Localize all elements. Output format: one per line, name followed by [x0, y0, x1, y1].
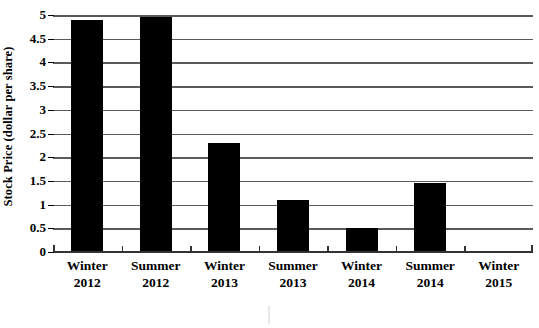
x-axis-tick-label-season: Summer — [122, 258, 191, 275]
y-axis-tick-mark — [48, 134, 54, 135]
x-axis-tick-mark — [190, 246, 192, 253]
y-axis-tick-mark — [48, 157, 54, 158]
x-axis-tick-mark — [259, 246, 261, 253]
bar[interactable] — [277, 200, 309, 252]
y-axis-tick-label: 4.5 — [14, 32, 46, 45]
x-axis-tick-label-year: 2015 — [464, 275, 533, 292]
y-axis-tick-mark — [48, 86, 54, 87]
x-axis-tick-mark — [122, 246, 124, 253]
y-axis-tick-mark — [48, 15, 54, 16]
y-axis-tick-mark — [48, 181, 54, 182]
x-axis-tick-label: Winter2015 — [464, 258, 533, 291]
gridline — [53, 134, 533, 136]
x-axis-tick-label-year: 2014 — [327, 275, 396, 292]
x-axis-tick-label: Winter2012 — [53, 258, 122, 291]
x-axis-tick-label-season: Winter — [53, 258, 122, 275]
x-axis-tick-label-season: Summer — [396, 258, 465, 275]
x-axis-tick-label-year: 2012 — [53, 275, 122, 292]
x-axis-tick-labels: Winter2012Summer2012Winter2013Summer2013… — [53, 258, 533, 308]
x-axis-tick-mark — [327, 246, 329, 253]
y-axis-tick-label: 2 — [14, 150, 46, 163]
bar[interactable] — [346, 228, 378, 252]
y-axis-tick-label: 5 — [14, 8, 46, 21]
y-axis-tick-mark — [48, 39, 54, 40]
x-axis-tick-label: Winter2013 — [190, 258, 259, 291]
x-axis-tick-label: Summer2013 — [259, 258, 328, 291]
y-axis-tick-mark — [48, 252, 54, 253]
gridline — [53, 39, 533, 41]
x-axis-tick-label-year: 2014 — [396, 275, 465, 292]
x-axis-right-cap — [531, 245, 533, 253]
x-axis-tick-label-season: Winter — [327, 258, 396, 275]
x-axis-line — [53, 251, 533, 253]
gridline — [53, 110, 533, 112]
y-axis-tick-label: 1.5 — [14, 174, 46, 187]
x-axis-tick-mark — [464, 246, 466, 253]
page-artifact — [268, 306, 270, 324]
x-axis-tick-label-year: 2013 — [190, 275, 259, 292]
x-axis-tick-label-year: 2013 — [259, 275, 328, 292]
y-axis-tick-label: 0.5 — [14, 221, 46, 234]
x-axis-tick-label-season: Summer — [259, 258, 328, 275]
plot-area — [53, 15, 533, 252]
y-axis-tick-mark — [48, 205, 54, 206]
x-axis-tick-label: Winter2014 — [327, 258, 396, 291]
bar-chart: Stock Price (dollar per share) 00.511.52… — [0, 0, 539, 328]
y-axis-tick-label: 4 — [14, 55, 46, 68]
y-axis-tick-labels: 00.511.522.533.544.55 — [14, 0, 46, 268]
gridline — [53, 62, 533, 64]
y-axis-tick-label: 3 — [14, 103, 46, 116]
y-axis-tick-label: 0 — [14, 245, 46, 258]
gridline — [53, 181, 533, 183]
x-axis-tick-label: Summer2012 — [122, 258, 191, 291]
gridline — [53, 15, 533, 17]
bar[interactable] — [140, 17, 172, 252]
y-axis-tick-mark — [48, 228, 54, 229]
x-axis-tick-label-season: Winter — [464, 258, 533, 275]
x-axis-tick-label: Summer2014 — [396, 258, 465, 291]
y-axis-tick-mark — [48, 62, 54, 63]
gridline — [53, 157, 533, 159]
bar[interactable] — [414, 183, 446, 252]
bar[interactable] — [71, 20, 103, 252]
y-axis-tick-label: 1 — [14, 198, 46, 211]
bar[interactable] — [208, 143, 240, 252]
x-axis-tick-mark — [396, 246, 398, 253]
y-axis-tick-label: 2.5 — [14, 127, 46, 140]
y-axis-tick-label: 3.5 — [14, 79, 46, 92]
gridline — [53, 86, 533, 88]
y-axis-tick-mark — [48, 110, 54, 111]
x-axis-tick-label-season: Winter — [190, 258, 259, 275]
x-axis-tick-label-year: 2012 — [122, 275, 191, 292]
